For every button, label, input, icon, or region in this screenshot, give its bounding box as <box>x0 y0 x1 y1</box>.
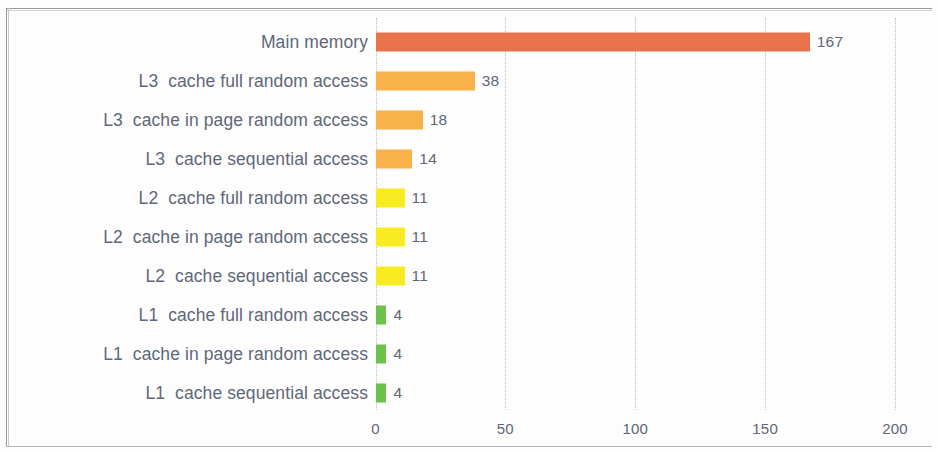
bar-row: L3 cache sequential access14 <box>0 139 938 178</box>
bar-value-label: 14 <box>419 150 437 168</box>
bar <box>376 227 405 246</box>
bar-row: L2 cache sequential access11 <box>0 256 938 295</box>
category-label: L2 cache full random access <box>139 187 368 208</box>
plot-area: 050100150200 Main memory167L3 cache full… <box>0 0 938 452</box>
category-label: L2 cache in page random access <box>103 226 368 247</box>
x-tick-label: 50 <box>497 420 514 437</box>
bar <box>376 71 475 90</box>
bar-value-label: 11 <box>412 267 429 285</box>
bar-value-label: 18 <box>430 111 448 129</box>
bar-row: L2 cache full random access11 <box>0 178 938 217</box>
bar-chart-figure: 050100150200 Main memory167L3 cache full… <box>0 0 938 452</box>
bar-row: L3 cache in page random access18 <box>0 100 938 139</box>
x-tick-label: 0 <box>371 420 380 437</box>
category-label: Main memory <box>261 31 368 52</box>
bar-value-label: 38 <box>482 72 500 90</box>
bar <box>376 110 423 129</box>
bar-row: L1 cache in page random access4 <box>0 334 938 373</box>
x-tick-label: 200 <box>882 420 908 437</box>
bar-row: L2 cache in page random access11 <box>0 217 938 256</box>
category-label: L1 cache full random access <box>139 304 368 325</box>
bar <box>376 305 386 324</box>
bar <box>376 32 810 51</box>
bar-row: L1 cache full random access4 <box>0 295 938 334</box>
bar-value-label: 11 <box>412 189 429 207</box>
bar <box>376 344 386 363</box>
category-label: L3 cache in page random access <box>103 109 368 130</box>
category-label: L2 cache sequential access <box>145 265 368 286</box>
bar-row: L3 cache full random access38 <box>0 61 938 100</box>
bar-value-label: 4 <box>393 345 402 363</box>
category-label: L1 cache sequential access <box>145 382 368 403</box>
bar-value-label: 4 <box>393 384 402 402</box>
bar-value-label: 167 <box>817 33 843 51</box>
bar-row: Main memory167 <box>0 22 938 61</box>
x-tick-label: 100 <box>622 420 648 437</box>
bar-row: L1 cache sequential access4 <box>0 373 938 412</box>
bar <box>376 383 386 402</box>
category-label: L3 cache sequential access <box>145 148 368 169</box>
x-tick-label: 150 <box>752 420 778 437</box>
bar <box>376 266 405 285</box>
bar-value-label: 4 <box>393 306 402 324</box>
category-label: L1 cache in page random access <box>103 343 368 364</box>
bar <box>376 149 412 168</box>
category-label: L3 cache full random access <box>139 70 368 91</box>
bar-value-label: 11 <box>412 228 429 246</box>
bar <box>376 188 405 207</box>
